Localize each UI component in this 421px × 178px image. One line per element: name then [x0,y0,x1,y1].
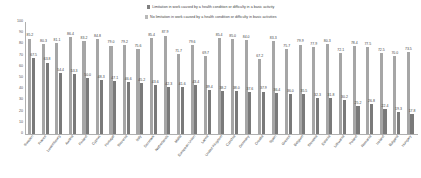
bar-group: 72.522.4 [376,22,390,134]
bar: 46.6 [127,82,130,134]
bar-value-label: 67.2 [256,55,263,59]
bar-group: 73.517.8 [403,22,417,134]
bar-group: 69.739.4 [201,22,215,134]
bar-value-label: 70.0 [391,52,398,56]
bar: 31.8 [329,98,332,134]
bar: 43.6 [154,85,157,134]
bar: 81.1 [55,43,58,134]
plot-area: 1009080706050403020100 85.267.580.363.88… [0,22,421,142]
bar-value-label: 72.1 [337,49,344,53]
bar: 77.9 [312,47,315,134]
bar-value-label: 22.4 [382,105,389,109]
bar-value-label: 32.3 [314,94,321,98]
y-axis: 1009080706050403020100 [10,22,24,134]
bar-value-label: 75.7 [283,45,290,49]
x-axis-label-cell: Sweden [25,135,39,177]
x-axis-label: Malta [175,135,183,144]
bar-group: 80.363.8 [39,22,53,134]
y-axis-tick: 70 [19,54,23,58]
bar: 41.6 [181,87,184,134]
bar-value-label: 17.8 [409,110,416,114]
x-axis-label: Ireland [376,135,386,146]
bar-group: 79.643.4 [187,22,201,134]
bar-value-label: 85.2 [27,34,34,38]
bar-value-label: 84.0 [243,36,250,40]
bar: 77.5 [366,47,369,134]
bar-value-label: 39.4 [206,86,213,90]
x-axis-label-cell: Denmark [147,135,161,177]
bar-value-label: 84.8 [94,35,101,39]
bar: 36.4 [275,93,278,134]
bar-value-label: 37.6 [246,88,253,92]
bar-group: 77.932.3 [309,22,323,134]
y-axis-tick: 10 [19,121,23,125]
bar: 38.2 [221,91,224,134]
chart-legend: Limitation in work caused by a health co… [0,2,421,22]
bar-value-label: 35.5 [301,90,308,94]
bar-value-label: 85.0 [229,35,236,39]
x-axis-label: Belgium [294,135,305,147]
bar-group: 85.438.2 [214,22,228,134]
y-axis-tick: 20 [19,110,23,114]
bar-value-label: 45.2 [138,79,145,83]
x-axis-label-cell: Poland [349,135,363,177]
bar-value-label: 54.4 [57,69,64,73]
bar-value-label: 36.4 [273,89,280,93]
bar: 79.2 [123,45,126,134]
x-axis-label-cell: Bulgaria [390,135,404,177]
x-axis-label: Slovenia [118,135,129,148]
x-axis-labels: SwedenFranceLuxembourgAustriaFinlandCypr… [25,135,417,177]
x-axis-label: Portugal [105,135,116,148]
bar-value-label: 77.5 [364,43,371,47]
bar: 43.4 [194,85,197,134]
bar: 85.4 [150,38,153,134]
bar: 32.3 [316,98,319,134]
bar: 22.4 [383,109,386,134]
bar: 80.3 [326,44,329,134]
bar: 35.5 [302,94,305,134]
bar-value-label: 83.3 [270,37,277,41]
x-axis-label-cell: France [39,135,53,177]
bar-group: 81.154.4 [52,22,66,134]
x-axis-label: Hungary [402,135,413,148]
bar: 79.0 [109,46,112,134]
bar-value-label: 63.8 [44,58,51,62]
bar-group: 79.246.6 [120,22,134,134]
bar: 37.9 [262,92,265,134]
bar: 42.3 [167,87,170,134]
bar-value-label: 77.9 [310,43,317,47]
bar: 72.5 [380,53,383,134]
bar-value-label: 83.2 [81,37,88,41]
bar: 73.5 [407,52,410,134]
bar-value-label: 85.4 [148,34,155,38]
bar-value-label: 73.5 [405,48,412,52]
bar-series-container: 85.267.580.363.881.154.486.453.383.250.0… [25,22,417,134]
bar: 71.7 [177,54,180,134]
bar-value-label: 71.7 [175,50,182,54]
x-axis-label: Lithuania [334,135,346,149]
bar-group: 79.935.5 [295,22,309,134]
bar: 30.2 [343,100,346,134]
bar-value-label: 86.4 [67,33,74,37]
bar-group: 85.038.0 [228,22,242,134]
bar-group: 87.942.3 [160,22,174,134]
x-axis-label: Denmark [144,135,156,149]
bar: 47.1 [113,81,116,134]
x-axis-label-cell: Portugal [106,135,120,177]
bar-value-label: 48.3 [98,76,105,80]
x-axis-label: Slovakia [307,135,318,148]
legend-entry-limitation: Limitation in work caused by a health co… [0,2,421,12]
x-axis-label: Croatia [254,135,264,146]
y-axis-tick: 100 [17,20,23,24]
bar-value-label: 43.4 [192,81,199,85]
y-axis-tick: 0 [21,132,23,136]
bar-group: 83.336.4 [268,22,282,134]
x-axis-label-cell: Italy [133,135,147,177]
bar: 53.3 [73,74,76,134]
bar-group: 84.848.3 [93,22,107,134]
x-axis-label-cell: Austria [66,135,80,177]
bar: 45.2 [140,83,143,134]
bar-value-label: 46.6 [125,78,132,82]
bar-group: 83.250.0 [79,22,93,134]
x-axis-label: Latvia [202,135,211,145]
